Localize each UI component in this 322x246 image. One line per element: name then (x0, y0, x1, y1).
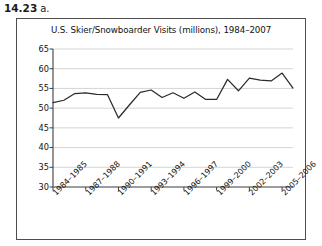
exercise-number: 14.23 (4, 2, 37, 14)
x-axis-tick-labels: 1984–19851987–19881990–19911993–19941996… (53, 187, 303, 246)
chart-title: U.S. Skier/Snowboarder Visits (millions)… (17, 25, 305, 36)
y-axis-tick-label: 65 (39, 45, 49, 53)
y-axis-tick-label: 50 (39, 104, 49, 112)
chart-figure: U.S. Skier/Snowboarder Visits (millions)… (16, 18, 306, 240)
y-axis-tick-label: 45 (39, 124, 49, 132)
data-series-line (53, 73, 293, 118)
y-axis-tick-label: 55 (39, 84, 49, 92)
y-axis-tick-labels: 6560555045403530 (17, 49, 49, 187)
y-axis-tick-label: 30 (39, 183, 49, 191)
exercise-part: a. (40, 3, 49, 14)
y-axis-tick-label: 40 (39, 143, 49, 151)
exercise-label: 14.23a. (4, 2, 50, 15)
gridlines (53, 49, 293, 167)
y-axis-tick-label: 60 (39, 65, 49, 73)
y-axis-tick-label: 35 (39, 163, 49, 171)
